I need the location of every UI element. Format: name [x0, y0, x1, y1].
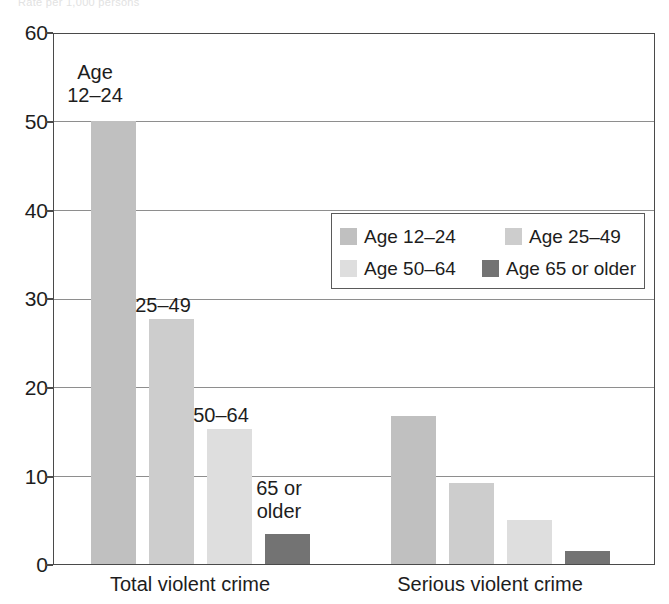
x-axis-label-total-violent-crime: Total violent crime: [60, 572, 320, 596]
legend-swatch-age-50-64: [340, 260, 357, 277]
y-tick-label-20: 20: [8, 377, 48, 398]
bar-total-age-12-24: [91, 121, 136, 564]
gridline-50: [54, 121, 654, 122]
legend-item-age-12-24: Age 12–24: [340, 227, 505, 246]
bar-annotation-age-12-24: Age 12–24: [50, 61, 140, 107]
gridline-10: [54, 476, 654, 477]
legend-label-age-50-64: Age 50–64: [364, 259, 456, 278]
legend-item-age-65-older: Age 65 or older: [482, 259, 636, 278]
bar-serious-age-12-24: [391, 416, 436, 564]
y-tick-mark-20: [46, 387, 53, 389]
gridline-20: [54, 387, 654, 388]
legend-row-2: Age 50–64 Age 65 or older: [340, 252, 636, 284]
y-tick-label-60: 60: [8, 22, 48, 43]
legend-row-1: Age 12–24 Age 25–49: [340, 220, 636, 252]
bar-serious-age-65-older: [565, 551, 610, 564]
bar-total-age-65-older: [265, 534, 310, 564]
bar-total-age-25-49: [149, 319, 194, 564]
y-tick-mark-0: [46, 564, 53, 566]
legend-swatch-age-65-older: [482, 260, 499, 277]
x-axis-label-serious-violent-crime: Serious violent crime: [360, 572, 620, 596]
y-tick-label-50: 50: [8, 111, 48, 132]
legend-label-age-65-older: Age 65 or older: [506, 259, 636, 278]
legend: Age 12–24 Age 25–49 Age 50–64 Age 65 or …: [331, 213, 645, 289]
y-tick-label-30: 30: [8, 288, 48, 309]
bar-serious-age-50-64: [507, 520, 552, 564]
y-tick-label-0: 0: [8, 554, 48, 575]
y-tick-mark-30: [46, 298, 53, 300]
legend-item-age-25-49: Age 25–49: [505, 227, 621, 246]
y-tick-label-10: 10: [8, 466, 48, 487]
y-tick-mark-60: [46, 32, 53, 34]
y-tick-mark-50: [46, 121, 53, 123]
bar-chart: Rate per 1,000 persons 60 50 40 30 20 10…: [0, 0, 669, 604]
bar-serious-age-25-49: [449, 483, 494, 564]
legend-label-age-12-24: Age 12–24: [364, 227, 456, 246]
y-tick-mark-10: [46, 476, 53, 478]
y-tick-mark-40: [46, 210, 53, 212]
legend-swatch-age-12-24: [340, 228, 357, 245]
gridline-40: [54, 210, 654, 211]
legend-item-age-50-64: Age 50–64: [340, 259, 482, 278]
legend-swatch-age-25-49: [505, 228, 522, 245]
y-tick-label-40: 40: [8, 200, 48, 221]
bar-annotation-age-65-older: 65 or older: [234, 477, 324, 523]
bar-annotation-age-50-64: 50–64: [176, 404, 266, 427]
bar-annotation-age-25-49: 25–49: [118, 294, 208, 317]
legend-label-age-25-49: Age 25–49: [529, 227, 621, 246]
